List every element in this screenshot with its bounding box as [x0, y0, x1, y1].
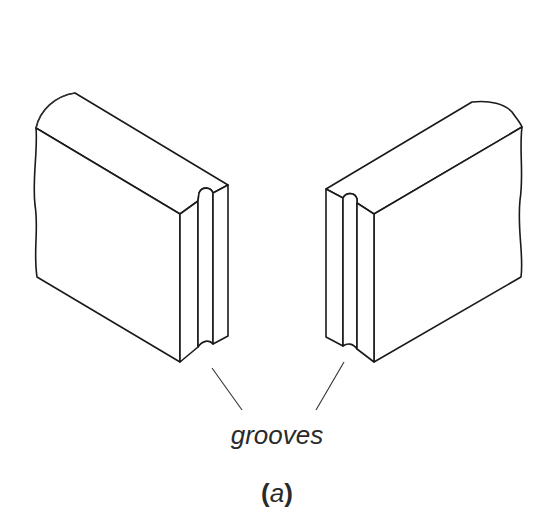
- left-block-edge-face: [180, 201, 198, 362]
- caption-letter: a: [270, 478, 284, 508]
- leader-line-right: [316, 362, 344, 410]
- grooved-panels-diagram: grooves (a): [0, 0, 552, 529]
- left-block-groove: [198, 188, 213, 347]
- left-block-edge-rear: [213, 185, 228, 344]
- left-block: [34, 93, 228, 362]
- leader-line-left: [212, 368, 242, 410]
- right-block-edge-rear: [326, 189, 343, 346]
- right-block: [326, 101, 522, 362]
- right-block-edge-front: [357, 203, 374, 362]
- figure-caption: (a): [261, 478, 293, 508]
- caption-close-paren: ): [284, 478, 293, 508]
- caption-open-paren: (: [261, 478, 270, 508]
- right-block-groove: [343, 194, 357, 349]
- grooves-label: grooves: [231, 420, 324, 450]
